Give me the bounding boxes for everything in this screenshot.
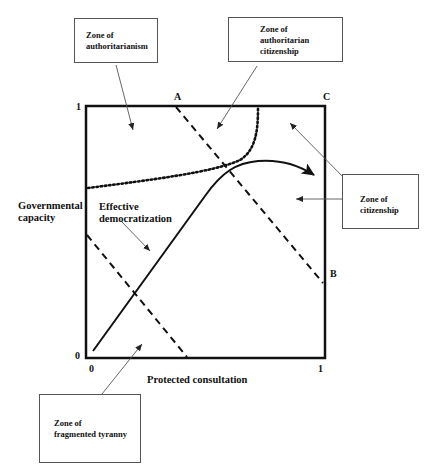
callout-authoritarian-citizenship-line3: citizenship [260, 46, 309, 57]
callout-text-authoritarianism: Zone of authoritarianism [86, 30, 148, 52]
callout-text-fragmented-tyranny: Zone of fragmented tyranny [54, 418, 127, 440]
leader-authoritarian-citizenship [217, 66, 257, 129]
plot-frame [86, 106, 325, 358]
callout-text-authoritarian-citizenship: Zone of authoritarian citizenship [260, 24, 309, 57]
effective-democratization-label: Effective democratization [99, 201, 172, 225]
y-axis-title: Governmental capacity [18, 200, 83, 224]
callout-authoritarianism-line2: authoritarianism [86, 41, 148, 52]
leader-effective-democratization [122, 222, 150, 251]
y-axis-title-line2: capacity [18, 212, 83, 224]
y-tick-bottom: 0 [75, 350, 80, 361]
leader-citizenship-upper [290, 123, 348, 182]
leader-authoritarianism [116, 65, 133, 130]
callout-text-citizenship: Zone of citizenship [360, 194, 399, 216]
callout-fragmented-tyranny-line1: Zone of [54, 418, 127, 429]
democratization-trajectory-curve [93, 161, 314, 351]
x-tick-right: 1 [318, 363, 323, 374]
y-tick-top: 1 [76, 101, 81, 112]
callout-authoritarianism-line1: Zone of [86, 30, 148, 41]
x-axis-title: Protected consultation [147, 374, 247, 386]
callout-authoritarian-citizenship-line1: Zone of [260, 24, 309, 35]
effective-democratization-line2: democratization [99, 213, 172, 225]
y-axis-title-line1: Governmental [18, 200, 83, 212]
callout-citizenship-line2: citizenship [360, 205, 399, 216]
callout-citizenship-line1: Zone of [360, 194, 399, 205]
dashed-boundary-a-b [176, 107, 323, 283]
point-label-b: B [330, 268, 337, 279]
callout-fragmented-tyranny-line2: fragmented tyranny [54, 429, 127, 440]
x-tick-left: 0 [89, 363, 94, 374]
point-label-c: C [323, 91, 330, 102]
point-label-a: A [174, 91, 181, 102]
effective-democratization-line1: Effective [99, 201, 172, 213]
callout-authoritarian-citizenship-line2: authoritarian [260, 35, 309, 46]
